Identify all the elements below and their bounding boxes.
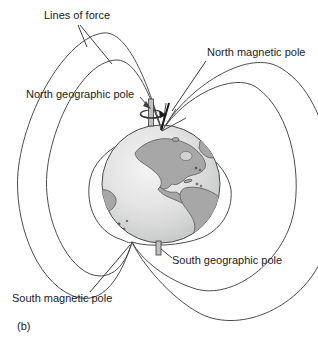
leader-north-magnetic xyxy=(172,61,206,111)
south-magnetic-pole-label: South magnetic pole xyxy=(12,292,112,304)
leader-south-geographic xyxy=(161,249,172,258)
pacific-islet xyxy=(126,220,128,222)
leader-south-magnetic xyxy=(90,245,130,292)
magnetic-field-diagram: Lines of force North magnetic pole North… xyxy=(0,0,318,342)
earth-axis-rod-bottom xyxy=(156,241,161,255)
caribbean-island xyxy=(196,183,198,185)
north-magnetic-pole-label: North magnetic pole xyxy=(207,46,305,58)
north-geographic-pole-label: North geographic pole xyxy=(26,88,134,100)
earth-axis-rod-top xyxy=(149,99,154,126)
caribbean-island xyxy=(200,185,202,187)
great-lakes-speck xyxy=(195,167,197,169)
hudson-bay xyxy=(180,151,192,160)
arctic-island xyxy=(172,138,179,142)
globe xyxy=(96,125,226,243)
great-lakes-speck xyxy=(199,169,201,171)
leader-lines-of-force-2 xyxy=(80,25,112,64)
lines-of-force-label: Lines of force xyxy=(44,9,110,21)
south-geographic-pole-label: South geographic pole xyxy=(172,254,282,266)
figure-panel-label: (b) xyxy=(17,320,30,332)
